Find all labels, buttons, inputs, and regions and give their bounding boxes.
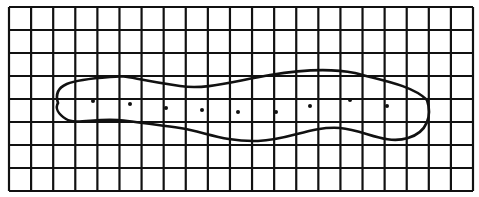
grid-lines	[9, 7, 473, 191]
dot-marker	[128, 102, 132, 106]
dot-marker	[385, 104, 389, 108]
dot-markers	[91, 98, 389, 114]
dot-marker	[91, 99, 95, 103]
dot-marker	[164, 106, 168, 110]
dot-marker	[308, 104, 312, 108]
dot-marker	[274, 110, 278, 114]
dot-marker	[348, 98, 352, 102]
dot-marker	[236, 110, 240, 114]
dot-marker	[200, 108, 204, 112]
blob-outline	[57, 70, 429, 141]
grid-figure	[0, 0, 479, 197]
